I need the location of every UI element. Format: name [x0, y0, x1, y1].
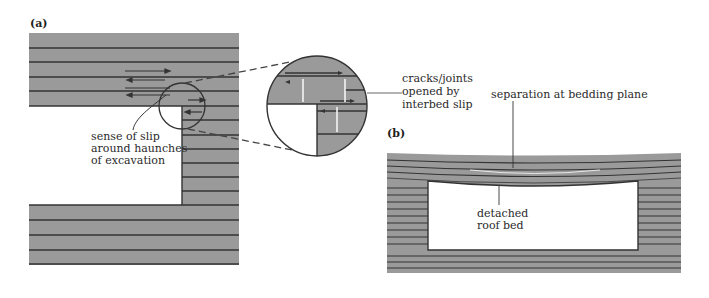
slip-label-line3: of excavation: [91, 154, 165, 167]
panel-b-label: (b): [387, 127, 405, 140]
panel-b: (b): [387, 88, 681, 273]
roof-bed-label-line2: roof bed: [477, 219, 524, 232]
panel-a-label: (a): [30, 17, 48, 30]
separation-label: separation at bedding plane: [491, 88, 648, 101]
opening-b: [428, 181, 638, 250]
cracks-label-line3: interbed slip: [402, 98, 473, 111]
cracks-label-line1: cracks/joints: [402, 72, 473, 85]
cracks-label-line2: opened by: [402, 85, 460, 98]
figure-canvas: (a): [0, 0, 709, 298]
